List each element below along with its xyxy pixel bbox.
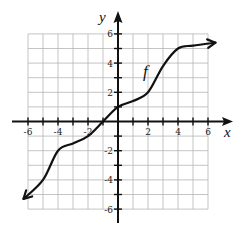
function-label: f xyxy=(143,62,150,81)
function-graph: -6-4-2246642-2-4-6 y x f xyxy=(0,0,245,228)
x-axis-label: x xyxy=(223,124,231,140)
axes xyxy=(12,11,233,223)
y-tick-label: -4 xyxy=(104,175,113,185)
y-tick-label: -6 xyxy=(104,205,113,215)
y-axis-label: y xyxy=(97,9,106,25)
x-tick-label: 6 xyxy=(205,127,211,137)
y-tick-label: 2 xyxy=(107,88,113,98)
x-tick-label: -4 xyxy=(54,127,63,137)
x-tick-label: -6 xyxy=(24,127,33,137)
x-tick-label: 4 xyxy=(175,127,181,137)
y-tick-label: 6 xyxy=(107,29,113,39)
y-tick-label: -2 xyxy=(104,146,113,156)
y-tick-label: 4 xyxy=(107,59,113,69)
x-tick-label: 2 xyxy=(145,127,151,137)
